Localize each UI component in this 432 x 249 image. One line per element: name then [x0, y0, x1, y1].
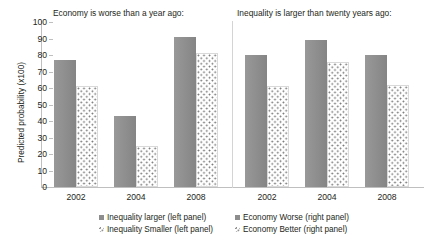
bar-group — [174, 21, 218, 187]
bar-chart-figure: Predicted probability (x100) Economy is … — [0, 0, 432, 249]
bar-group — [365, 21, 409, 187]
bar-group — [114, 21, 158, 187]
legend-item: Economy Worse (right panel) — [235, 212, 349, 223]
bar — [267, 86, 289, 187]
x-tick-labels: 200220042008200220042008 — [41, 191, 424, 205]
bar-group — [305, 21, 349, 187]
legend-swatch-dotted-icon — [235, 227, 240, 232]
legend-swatch-solid-icon — [235, 215, 240, 220]
bar — [76, 86, 98, 187]
legend-item: Economy Better (right panel) — [235, 224, 349, 235]
bar — [114, 116, 136, 187]
x-tick-label: 2002 — [54, 191, 98, 203]
x-tick-label: 2008 — [174, 191, 218, 203]
chart-legend: Inequality larger (left panel)Inequality… — [0, 212, 432, 246]
legend-column-left: Inequality larger (left panel)Inequality… — [99, 212, 213, 236]
legend-swatch-solid-icon — [99, 215, 104, 220]
x-tick-label: 2008 — [365, 191, 409, 203]
bar — [54, 60, 76, 187]
bar — [387, 85, 409, 187]
bar-series-container — [41, 21, 424, 188]
legend-label: Inequality larger (left panel) — [107, 212, 206, 223]
bar — [245, 55, 267, 187]
x-tick-label: 2002 — [245, 191, 289, 203]
bar — [365, 55, 387, 187]
legend-swatch-dotted-icon — [99, 227, 104, 232]
bar — [305, 40, 327, 187]
bar — [196, 53, 218, 187]
bar — [136, 146, 158, 187]
x-tick-label: 2004 — [305, 191, 349, 203]
legend-item: Inequality larger (left panel) — [99, 212, 213, 223]
bar — [327, 62, 349, 187]
bar-group — [54, 21, 98, 187]
x-tick-label: 2004 — [114, 191, 158, 203]
legend-item: Inequality Smaller (left panel) — [99, 224, 213, 235]
legend-column-right: Economy Worse (right panel)Economy Bette… — [235, 212, 349, 236]
legend-label: Economy Better (right panel) — [243, 224, 347, 235]
bar-group — [245, 21, 289, 187]
legend-label: Inequality Smaller (left panel) — [107, 224, 213, 235]
plot-area: 1009080706050403020100 — [41, 21, 424, 188]
right-panel-title: Inequality is larger than twenty years a… — [237, 8, 392, 18]
legend-label: Economy Worse (right panel) — [243, 212, 349, 223]
left-panel-title: Economy is worse than a year ago: — [53, 8, 184, 18]
bar — [174, 37, 196, 187]
